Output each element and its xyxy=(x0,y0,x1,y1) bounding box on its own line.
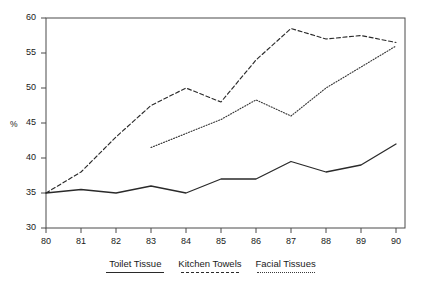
legend-swatch-dotted-line xyxy=(257,272,315,277)
x-tick-label: 85 xyxy=(206,236,236,246)
x-axis-ticks xyxy=(46,228,396,233)
y-tick-label: 40 xyxy=(6,152,36,162)
data-series-group xyxy=(46,29,396,194)
caption-clip-mask xyxy=(0,5,422,11)
legend-item-facial-tissues[interactable]: Facial Tissues xyxy=(256,258,316,277)
chart-legend: Toilet Tissue Kitchen Towels Facial Tiss… xyxy=(0,258,422,277)
series-line-toilet-tissue xyxy=(46,144,396,193)
legend-label-kitchen-towels: Kitchen Towels xyxy=(178,258,241,269)
plot-frame xyxy=(46,18,405,228)
y-tick-label: 35 xyxy=(6,187,36,197)
series-line-facial-tissues xyxy=(151,46,396,148)
x-tick-label: 81 xyxy=(66,236,96,246)
y-tick-label: 50 xyxy=(6,82,36,92)
legend-item-kitchen-towels[interactable]: Kitchen Towels xyxy=(178,258,241,277)
legend-swatch-dashed-line xyxy=(181,272,239,277)
x-tick-label: 90 xyxy=(381,236,411,246)
legend-item-toilet-tissue[interactable]: Toilet Tissue xyxy=(106,258,164,277)
legend-label-facial-tissues: Facial Tissues xyxy=(256,258,316,269)
legend-label-toilet-tissue: Toilet Tissue xyxy=(109,258,161,269)
x-tick-label: 87 xyxy=(276,236,306,246)
x-tick-label: 89 xyxy=(346,236,376,246)
y-tick-label: 30 xyxy=(6,222,36,232)
x-tick-label: 88 xyxy=(311,236,341,246)
y-tick-label: 60 xyxy=(6,12,36,22)
x-tick-label: 83 xyxy=(136,236,166,246)
x-tick-label: 84 xyxy=(171,236,201,246)
x-tick-label: 86 xyxy=(241,236,271,246)
y-tick-label: 55 xyxy=(6,47,36,57)
x-tick-label: 80 xyxy=(31,236,61,246)
legend-swatch-solid-line xyxy=(106,272,164,277)
x-tick-label: 82 xyxy=(101,236,131,246)
y-axis-ticks xyxy=(41,18,46,228)
y-axis-title: % xyxy=(10,119,18,129)
